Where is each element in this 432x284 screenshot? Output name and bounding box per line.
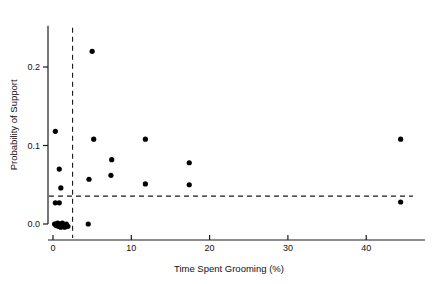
data-point xyxy=(187,182,192,187)
x-tick-label: 20 xyxy=(205,243,215,253)
data-point xyxy=(109,157,114,162)
data-point xyxy=(58,185,63,190)
reference-lines-group xyxy=(49,28,413,238)
data-point xyxy=(398,199,403,204)
data-point xyxy=(143,137,148,142)
y-tick-label: 0.1 xyxy=(27,141,40,151)
data-point xyxy=(53,129,58,134)
y-tick-label: 0.2 xyxy=(27,62,40,72)
y-tick-label: 0.0 xyxy=(27,219,40,229)
tick-labels-group: 0.00.10.2010203040 xyxy=(27,62,371,253)
y-axis-title: Probability of Support xyxy=(8,79,19,170)
data-point xyxy=(398,137,403,142)
data-point xyxy=(91,137,96,142)
data-points-group xyxy=(52,49,403,230)
data-point xyxy=(57,200,62,205)
data-point xyxy=(187,160,192,165)
x-axis-title: Time Spent Grooming (%) xyxy=(174,263,284,274)
data-point xyxy=(90,49,95,54)
data-point xyxy=(86,177,91,182)
x-tick-label: 0 xyxy=(50,243,55,253)
plot-canvas: 0.00.10.2010203040 Time Spent Grooming (… xyxy=(0,0,432,284)
x-tick-label: 40 xyxy=(361,243,371,253)
data-point xyxy=(57,166,62,171)
data-point xyxy=(65,224,70,229)
x-tick-label: 10 xyxy=(126,243,136,253)
data-point xyxy=(143,181,148,186)
data-point xyxy=(86,221,91,226)
x-tick-label: 30 xyxy=(283,243,293,253)
data-point xyxy=(108,173,113,178)
axes-group xyxy=(43,26,425,240)
scatter-plot-figure: 0.00.10.2010203040 Time Spent Grooming (… xyxy=(0,0,432,284)
